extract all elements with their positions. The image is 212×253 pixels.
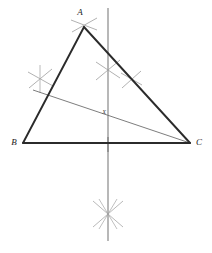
point-label-x: X xyxy=(101,109,106,115)
vertex-label-c: C xyxy=(196,137,203,147)
triangle-abc xyxy=(23,27,190,143)
geometry-figure: A B C X xyxy=(0,0,212,253)
arc-cross-apex-a-icon xyxy=(71,18,97,32)
arc-cross-left-side-icon xyxy=(28,65,53,93)
geometry-canvas: A B C X xyxy=(0,0,212,253)
triangle-side-ac xyxy=(84,27,190,143)
construction-arc-group xyxy=(28,18,142,229)
vertex-label-b: B xyxy=(11,137,17,147)
vertex-label-a: A xyxy=(76,7,83,17)
